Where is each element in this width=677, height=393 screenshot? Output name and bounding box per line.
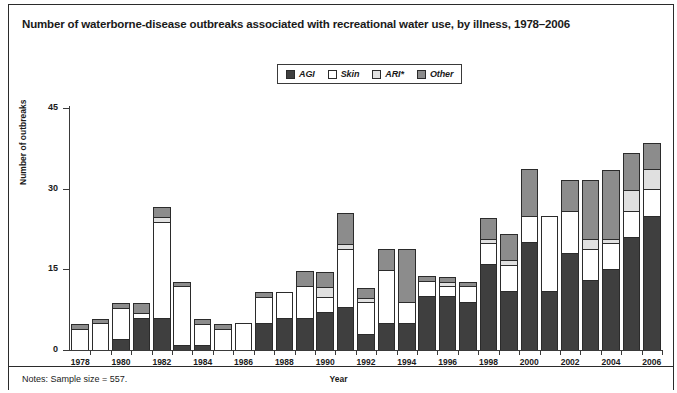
bar-segment-ari bbox=[643, 169, 661, 191]
y-tick-mark bbox=[63, 189, 69, 190]
x-tick-mark bbox=[131, 351, 132, 355]
bar-1990 bbox=[316, 272, 334, 350]
bar-segment-skin bbox=[521, 216, 539, 243]
legend-swatch-icon bbox=[286, 70, 295, 79]
bar-segment-other bbox=[602, 170, 620, 240]
x-tick-mark bbox=[519, 351, 520, 355]
frame-border-left bbox=[8, 4, 9, 390]
x-tick-mark bbox=[437, 351, 438, 355]
bar-segment-agi bbox=[194, 345, 212, 350]
y-tick-label: 30 bbox=[48, 183, 63, 193]
bar-segment-skin bbox=[194, 324, 212, 346]
bar-segment-agi bbox=[398, 323, 416, 350]
x-tick-mark bbox=[213, 351, 214, 355]
bar-1979 bbox=[92, 319, 110, 350]
x-tick-mark bbox=[560, 351, 561, 355]
plot-area bbox=[70, 108, 662, 350]
bar-1997 bbox=[459, 282, 477, 350]
bar-segment-agi bbox=[357, 334, 375, 350]
x-tick-label: 1994 bbox=[397, 357, 416, 367]
bar-1994 bbox=[398, 249, 416, 350]
bar-segment-skin bbox=[173, 286, 191, 345]
x-tick-mark bbox=[417, 351, 418, 355]
legend-label: ARI* bbox=[385, 69, 404, 79]
x-tick-label: 1980 bbox=[112, 357, 131, 367]
x-tick-mark bbox=[642, 351, 643, 355]
x-tick-mark bbox=[662, 351, 663, 355]
bar-segment-agi bbox=[418, 296, 436, 350]
x-tick-mark bbox=[499, 351, 500, 355]
legend-label: AGI bbox=[299, 69, 315, 79]
bar-segment-skin bbox=[378, 270, 396, 324]
legend-swatch-icon bbox=[372, 70, 381, 79]
x-tick-mark bbox=[233, 351, 234, 355]
bar-segment-other bbox=[623, 153, 641, 191]
bar-segment-agi bbox=[378, 323, 396, 350]
bar-segment-agi bbox=[296, 318, 314, 350]
x-tick-mark bbox=[90, 351, 91, 355]
x-tick-label: 1998 bbox=[479, 357, 498, 367]
x-tick-mark bbox=[601, 351, 602, 355]
bar-segment-skin bbox=[316, 297, 334, 313]
x-tick-mark bbox=[397, 351, 398, 355]
bar-segment-agi bbox=[561, 253, 579, 350]
bar-2003 bbox=[582, 180, 600, 350]
x-tick-label: 2000 bbox=[520, 357, 539, 367]
bar-1983 bbox=[173, 282, 191, 350]
figure-container: Number of waterborne-disease outbreaks a… bbox=[0, 0, 677, 393]
bar-segment-skin bbox=[561, 211, 579, 254]
bar-segment-skin bbox=[214, 329, 232, 351]
bar-1987 bbox=[255, 292, 273, 350]
bar-segment-skin bbox=[541, 216, 559, 291]
bar-segment-other bbox=[561, 180, 579, 212]
x-tick-mark bbox=[621, 351, 622, 355]
x-tick-mark bbox=[152, 351, 153, 355]
x-tick-mark bbox=[335, 351, 336, 355]
bar-segment-skin bbox=[480, 243, 498, 265]
bar-segment-agi bbox=[500, 291, 518, 350]
x-tick-mark bbox=[295, 351, 296, 355]
bar-segment-agi bbox=[153, 318, 171, 350]
bar-segment-skin bbox=[500, 265, 518, 292]
bar-1985 bbox=[214, 324, 232, 350]
bar-segment-agi bbox=[521, 242, 539, 350]
y-tick-mark bbox=[63, 269, 69, 270]
x-tick-mark bbox=[254, 351, 255, 355]
legend-item-other: Other bbox=[417, 69, 454, 79]
x-tick-label: 1990 bbox=[316, 357, 335, 367]
bar-1986 bbox=[235, 323, 253, 350]
bar-segment-other bbox=[480, 218, 498, 240]
bar-segment-skin bbox=[357, 302, 375, 334]
bar-segment-skin bbox=[235, 323, 253, 350]
bar-1989 bbox=[296, 271, 314, 350]
bar-2004 bbox=[602, 170, 620, 350]
x-tick-label: 2004 bbox=[601, 357, 620, 367]
bar-segment-agi bbox=[643, 216, 661, 350]
bar-segment-other bbox=[582, 180, 600, 239]
y-tick-label: 45 bbox=[48, 102, 63, 112]
bar-segment-skin bbox=[153, 222, 171, 319]
x-tick-label: 2006 bbox=[642, 357, 661, 367]
bar-1991 bbox=[337, 213, 355, 350]
bar-segment-skin bbox=[643, 189, 661, 216]
bar-1982 bbox=[153, 207, 171, 350]
bar-segment-ari bbox=[623, 190, 641, 212]
x-tick-mark bbox=[356, 351, 357, 355]
bar-segment-agi bbox=[602, 269, 620, 350]
x-tick-mark bbox=[172, 351, 173, 355]
x-tick-label: 1984 bbox=[193, 357, 212, 367]
bar-segment-agi bbox=[316, 312, 334, 350]
bar-segment-agi bbox=[623, 237, 641, 350]
legend-label: Skin bbox=[341, 69, 360, 79]
figure-notes: Notes: Sample size = 557. bbox=[22, 374, 127, 384]
bar-segment-agi bbox=[582, 280, 600, 350]
x-tick-label: 1988 bbox=[275, 357, 294, 367]
y-tick-mark bbox=[63, 350, 69, 351]
bar-segment-agi bbox=[541, 291, 559, 350]
bar-1992 bbox=[357, 288, 375, 350]
frame-border-right bbox=[673, 4, 674, 390]
bar-1981 bbox=[133, 303, 151, 350]
bar-segment-skin bbox=[418, 281, 436, 297]
bar-1993 bbox=[378, 249, 396, 350]
bar-1978 bbox=[71, 324, 89, 350]
